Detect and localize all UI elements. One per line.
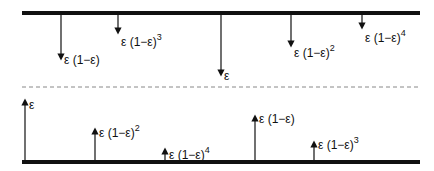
arrow-label: ε [29,99,34,111]
label-text: ε (1−ε) [294,46,330,60]
label-exponent: 4 [401,28,406,38]
arrow-label: ε (1−ε) [64,54,100,66]
label-exponent: 3 [354,135,359,145]
label-exponent: 2 [330,43,335,53]
label-text: ε (1−ε) [169,148,205,162]
label-text: ε (1−ε) [365,31,401,45]
arrow-label: ε [224,70,229,82]
label-text: ε (1−ε) [121,35,157,49]
arrow-label: ε (1−ε)2 [99,124,140,139]
arrow-label: ε (1−ε)3 [121,33,162,48]
label-text: ε [224,69,229,83]
label-exponent: 2 [135,123,140,133]
arrow-label: ε (1−ε)4 [365,29,406,44]
label-text: ε [29,98,34,112]
label-text: ε (1−ε) [318,138,354,152]
label-text: ε (1−ε) [64,53,100,67]
arrow-label: ε (1−ε)2 [294,44,335,59]
label-exponent: 4 [205,145,210,155]
arrow-label: ε (1−ε) [259,113,295,125]
label-exponent: 3 [157,32,162,42]
diagram-canvas [0,0,434,171]
arrow-label: ε (1−ε)3 [318,136,359,151]
label-text: ε (1−ε) [259,112,295,126]
label-text: ε (1−ε) [99,126,135,140]
arrow-label: ε (1−ε)4 [169,146,210,161]
